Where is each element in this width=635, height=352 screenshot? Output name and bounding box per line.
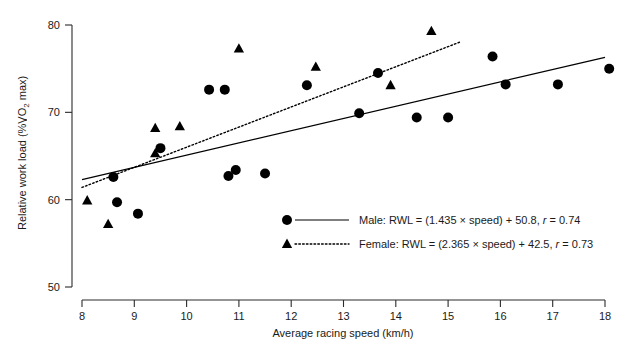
legend-marker-circle-icon (282, 215, 292, 225)
data-point-male (412, 113, 422, 123)
x-axis: 89101112131415161718 Average racing spee… (79, 300, 611, 339)
data-point-male (260, 168, 270, 178)
x-tick-label: 16 (494, 310, 506, 322)
legend-marker-triangle-icon (282, 239, 292, 248)
data-point-male (133, 209, 143, 219)
y-axis: 50607080 Relative work load (%VO2 max) (16, 19, 72, 293)
data-point-male (231, 165, 241, 175)
data-point-male (220, 85, 230, 95)
x-tick-label: 8 (79, 310, 85, 322)
data-point-male (354, 108, 364, 118)
data-point-female (385, 80, 395, 89)
trend-line-group (82, 42, 605, 188)
x-tick-label: 12 (285, 310, 297, 322)
data-point-female (82, 195, 92, 204)
data-point-male (204, 85, 214, 95)
data-point-female (234, 43, 244, 52)
data-point-female (103, 219, 113, 228)
y-axis-title: Relative work load (%VO2 max) (16, 76, 31, 230)
trend-line-female (82, 42, 461, 188)
y-tick-label: 50 (48, 281, 60, 293)
data-point-male (443, 113, 453, 123)
data-point-male (112, 197, 122, 207)
x-axis-title: Average racing speed (km/h) (272, 327, 413, 339)
legend: Male: RWL = (1.435 × speed) + 50.8, r = … (282, 214, 593, 250)
data-point-group (82, 26, 614, 228)
x-tick-label: 10 (180, 310, 192, 322)
data-point-female (150, 123, 160, 132)
chart-canvas: 50607080 Relative work load (%VO2 max) 8… (0, 0, 635, 352)
data-point-female (311, 61, 321, 70)
x-tick-label: 9 (131, 310, 137, 322)
data-point-male (108, 172, 118, 182)
x-tick-label: 15 (442, 310, 454, 322)
y-tick-label-group: 50607080 (48, 19, 60, 293)
y-tick-group (65, 25, 72, 287)
scatter-plot-figure: 50607080 Relative work load (%VO2 max) 8… (0, 0, 635, 352)
x-tick-label-group: 89101112131415161718 (79, 310, 611, 322)
y-tick-label: 70 (48, 106, 60, 118)
x-tick-group (82, 300, 605, 307)
x-tick-label: 11 (233, 310, 244, 322)
y-tick-label: 80 (48, 19, 60, 31)
data-point-female (426, 26, 436, 35)
vdot-overdot-icon (25, 119, 27, 121)
x-tick-label: 17 (547, 310, 559, 322)
data-point-male (302, 80, 312, 90)
data-point-male (501, 79, 511, 89)
x-tick-label: 13 (337, 310, 349, 322)
data-point-male (553, 79, 563, 89)
data-point-male (488, 51, 498, 61)
data-point-male (373, 68, 383, 78)
x-tick-label: 18 (599, 310, 611, 322)
legend-label: Female: RWL = (2.365 × speed) + 42.5, r … (359, 238, 593, 250)
x-tick-label: 14 (390, 310, 402, 322)
data-point-female (175, 121, 185, 130)
y-tick-label: 60 (48, 194, 60, 206)
data-point-male (604, 64, 614, 74)
trend-line-male (82, 57, 605, 179)
legend-label: Male: RWL = (1.435 × speed) + 50.8, r = … (359, 214, 580, 226)
